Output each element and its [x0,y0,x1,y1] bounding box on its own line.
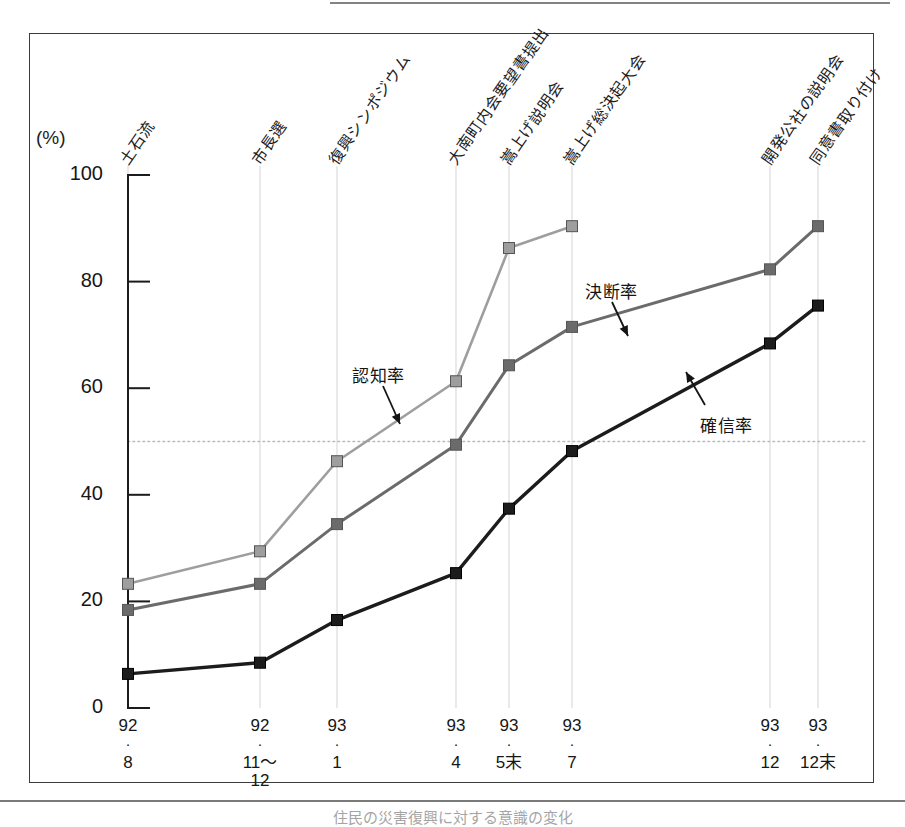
x-tick-month: 8 [82,754,174,772]
series-marker [332,615,343,626]
series-lines [123,221,824,680]
x-tick-label: 93·1 [291,717,383,772]
series-marker [765,264,776,275]
x-tick-label: 93·12末 [772,717,864,772]
y-tick-label: 60 [55,375,103,398]
series-marker [451,376,462,387]
series-marker [255,546,266,557]
y-tick-label: 80 [55,269,103,292]
x-tick-label: 92·8 [82,717,174,772]
x-tick-separator: · [291,737,383,751]
series-marker [813,300,824,311]
series-line [128,226,572,584]
series-marker [567,446,578,457]
series-annotation-1: 認知率 [352,362,405,387]
x-tick-year: 92 [82,717,174,735]
series-marker [504,243,515,254]
x-tick-separator: · [772,737,864,751]
x-tick-year: 93 [526,717,618,735]
series-line [128,306,818,674]
caption-rule [0,800,905,802]
figure-caption: 住民の災害復興に対する意識の変化 [0,806,905,827]
x-tick-month: 12末 [772,754,864,772]
x-tick-month: 7 [526,754,618,772]
x-tick-year: 93 [291,717,383,735]
x-tick-separator: · [82,737,174,751]
series-annotation-3: 確信率 [700,412,753,437]
x-tick-year: 93 [772,717,864,735]
series-marker [255,578,266,589]
y-tick-label: 0 [55,695,103,718]
series-marker [255,657,266,668]
series-marker [813,221,824,232]
x-tick-month-cont: 12 [214,772,306,790]
series-annotation-2: 決断率 [585,278,638,303]
y-tick-label: 100 [55,162,103,185]
series-marker [123,668,134,679]
series-marker [765,338,776,349]
series-marker [567,321,578,332]
series-marker [123,604,134,615]
x-tick-label: 93·7 [526,717,618,772]
series-marker [451,568,462,579]
series-marker [451,439,462,450]
series-marker [332,456,343,467]
y-tick-label: 20 [55,588,103,611]
series-marker [567,221,578,232]
series-marker [123,578,134,589]
y-tick-label: 40 [55,482,103,505]
x-tick-separator: · [526,737,618,751]
x-tick-month: 1 [291,754,383,772]
event-gridlines [128,166,818,708]
y-axis-unit-label: (%) [36,127,66,149]
series-marker [332,519,343,530]
series-marker [504,503,515,514]
series-marker [504,360,515,371]
